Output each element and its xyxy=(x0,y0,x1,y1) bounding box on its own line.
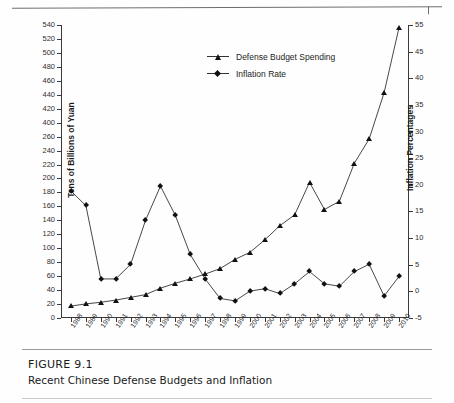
triangle-marker-icon xyxy=(321,207,327,212)
left-axis-tick xyxy=(57,318,61,319)
left-axis-tick-label: 540 xyxy=(42,21,55,29)
series-line-inflation xyxy=(71,186,399,301)
left-axis-tick-label: 20 xyxy=(47,300,55,308)
right-axis-tick-label: 30 xyxy=(415,128,423,136)
chart-container: 5405205004804604404204002602402202001801… xyxy=(0,14,454,344)
right-axis-tick-label: 55 xyxy=(415,21,423,29)
left-axis-tick-label: 500 xyxy=(42,49,55,57)
triangle-marker-icon xyxy=(247,250,253,255)
triangle-marker-icon xyxy=(366,136,372,141)
legend-label-inflation-rate: Inflation Rate xyxy=(236,69,286,79)
triangle-marker-icon xyxy=(351,161,357,166)
legend-item-inflation-rate: Inflation Rate xyxy=(207,67,335,80)
triangle-marker-icon xyxy=(381,90,387,95)
left-axis-tick-label: 80 xyxy=(47,258,55,266)
figure-caption: FIGURE 9.1 Recent Chinese Defense Budget… xyxy=(28,358,428,386)
caption-bottom-rule xyxy=(22,398,432,399)
triangle-marker-icon xyxy=(113,298,119,303)
caption-top-rule xyxy=(22,349,432,350)
right-axis-tick-label: 40 xyxy=(415,74,423,82)
triangle-marker-icon xyxy=(207,52,229,62)
left-axis-tick-label: 140 xyxy=(42,216,55,224)
right-axis-tick-label: 0 xyxy=(415,287,419,295)
left-axis-tick-label: 40 xyxy=(47,286,55,294)
left-axis-tick-label: 100 xyxy=(42,244,55,252)
right-axis-tick-label: 15 xyxy=(415,207,423,215)
right-axis-tick-label: 25 xyxy=(415,154,423,162)
triangle-marker-icon xyxy=(143,292,149,297)
left-axis-tick-label: 160 xyxy=(42,202,55,210)
triangle-marker-icon xyxy=(157,286,163,291)
right-axis-tick xyxy=(409,25,413,26)
left-axis-tick-label: 240 xyxy=(42,147,55,155)
right-axis-tick-label: 20 xyxy=(415,181,423,189)
left-axis-tick-label: 520 xyxy=(42,35,55,43)
right-axis-tick-label: 35 xyxy=(415,101,423,109)
right-axis-tick-label: 10 xyxy=(415,234,423,242)
triangle-marker-icon xyxy=(396,25,402,30)
triangle-marker-icon xyxy=(128,295,134,300)
left-axis-tick-label: 200 xyxy=(42,174,55,182)
left-axis-tick-label: 0 xyxy=(51,314,55,322)
left-axis-tick-label: 460 xyxy=(42,77,55,85)
triangle-marker-icon xyxy=(277,223,283,228)
triangle-marker-icon xyxy=(232,257,238,262)
legend-label-defense-budget: Defense Budget Spending xyxy=(236,52,335,62)
left-axis-tick-label: 120 xyxy=(42,230,55,238)
figure-caption-text: Recent Chinese Defense Budgets and Infla… xyxy=(28,374,428,386)
right-axis-tick xyxy=(409,291,413,292)
triangle-marker-icon xyxy=(98,300,104,305)
right-axis-tick-label: 45 xyxy=(415,48,423,56)
triangle-marker-icon xyxy=(262,237,268,242)
triangle-marker-icon xyxy=(217,266,223,271)
left-axis-tick-label: 440 xyxy=(42,91,55,99)
chart-legend: Defense Budget Spending Inflation Rate xyxy=(207,50,335,84)
right-axis-tick-label: 5 xyxy=(415,261,419,269)
left-axis-tick-label: 420 xyxy=(42,105,55,113)
right-axis-tick xyxy=(409,78,413,79)
right-axis-tick xyxy=(409,265,413,266)
figure-number: FIGURE 9.1 xyxy=(28,358,428,371)
triangle-marker-icon xyxy=(292,212,298,217)
left-axis-tick-label: 480 xyxy=(42,63,55,71)
triangle-marker-icon xyxy=(187,276,193,281)
left-axis-tick-label: 180 xyxy=(42,188,55,196)
right-axis-tick xyxy=(409,52,413,53)
left-axis-tick-label: 60 xyxy=(47,272,55,280)
triangle-marker-icon xyxy=(172,281,178,286)
legend-item-defense-budget: Defense Budget Spending xyxy=(207,50,335,63)
right-axis-tick xyxy=(409,238,413,239)
left-axis-tick-label: 400 xyxy=(42,119,55,127)
right-axis-tick-label: -5 xyxy=(415,314,422,322)
triangle-marker-icon xyxy=(83,301,89,306)
triangle-marker-icon xyxy=(68,303,74,308)
plot-area: 5405205004804604404204002602402202001801… xyxy=(61,25,409,318)
diamond-marker-icon xyxy=(207,69,229,79)
page-top-rule xyxy=(12,6,442,8)
figure-page: 5405205004804604404204002602402202001801… xyxy=(0,0,454,403)
triangle-marker-icon xyxy=(307,180,313,185)
left-axis-tick-label: 220 xyxy=(42,161,55,169)
right-axis-tick xyxy=(409,211,413,212)
left-axis-tick-label: 260 xyxy=(42,133,55,141)
triangle-marker-icon xyxy=(336,199,342,204)
